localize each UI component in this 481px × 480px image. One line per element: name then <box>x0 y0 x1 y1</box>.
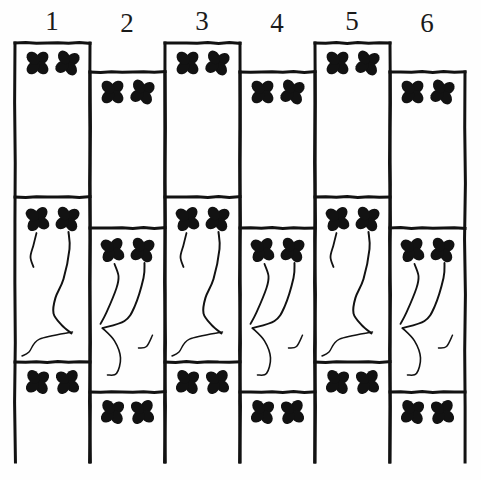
column-number-label: 5 <box>345 6 359 36</box>
middle-panel <box>172 203 233 356</box>
clover-motif <box>202 203 234 235</box>
clover-motif <box>172 203 203 234</box>
clover-motif <box>51 47 83 80</box>
clover-motif <box>322 203 353 234</box>
column-left-rule <box>390 72 391 462</box>
vine-stem-long <box>353 232 371 333</box>
clover-motif <box>398 397 428 427</box>
vine-stem-long <box>203 232 221 333</box>
column-4 <box>240 72 316 462</box>
clover-motif <box>323 367 353 397</box>
clover-motif <box>98 397 128 427</box>
panel-divider-upper <box>165 197 240 198</box>
column-number-5: 5 <box>332 8 372 35</box>
clover-motif <box>353 367 383 397</box>
column-left-rule <box>240 72 241 462</box>
middle-panel <box>97 234 158 375</box>
vine-stem-long <box>53 232 71 333</box>
bottom-panel <box>398 397 458 427</box>
vine-curl <box>253 328 271 375</box>
top-panel <box>324 47 384 80</box>
vine-stem-short <box>251 264 269 324</box>
bottom-panel <box>173 367 233 397</box>
panel-divider-upper <box>390 228 465 229</box>
clover-motif <box>53 367 83 397</box>
panel-divider-lower <box>240 392 315 393</box>
column-number-1: 1 <box>32 8 72 35</box>
top-panel <box>99 76 159 109</box>
clover-motif <box>247 234 278 265</box>
column-right-rule <box>465 72 466 462</box>
panel-divider-lower <box>390 392 465 393</box>
clover-motif <box>397 234 428 265</box>
clover-motif <box>23 367 53 397</box>
pattern-plate: 1 2 3 4 5 6 <box>0 0 481 480</box>
top-panel <box>249 76 309 109</box>
column-number-4: 4 <box>257 10 297 37</box>
vine-stem-long <box>403 263 445 328</box>
clover-motif <box>99 78 126 106</box>
clover-motif <box>174 49 201 77</box>
clover-motif <box>427 234 459 266</box>
vine-stem-short <box>331 233 337 267</box>
column-number-6: 6 <box>407 10 447 37</box>
clover-motif <box>277 234 309 266</box>
column-5 <box>315 43 391 462</box>
column-left-rule <box>90 72 91 462</box>
clover-motif <box>324 49 351 77</box>
panel-divider-upper <box>240 228 315 229</box>
column-number-3: 3 <box>182 8 222 35</box>
vine-stem-short <box>401 264 419 324</box>
column-top-rule <box>315 43 390 44</box>
column-left-rule <box>315 43 316 462</box>
panel-divider-upper <box>315 197 390 198</box>
middle-panel <box>397 234 458 375</box>
column-3 <box>165 43 241 462</box>
column-left-rule <box>165 43 166 462</box>
top-panel <box>399 76 459 109</box>
column-1 <box>15 43 91 462</box>
vine-stem-short <box>101 264 119 324</box>
clover-motif <box>248 397 278 427</box>
clover-motif <box>351 47 383 80</box>
middle-panel <box>322 203 383 356</box>
column-top-rule <box>240 72 315 73</box>
bottom-panel <box>248 397 308 427</box>
vine-sweep <box>322 332 373 356</box>
clover-motif <box>276 76 308 109</box>
clover-motif <box>24 49 51 77</box>
clover-motif <box>352 203 384 235</box>
clover-motif <box>97 234 128 265</box>
clover-motif <box>201 47 233 80</box>
clover-motif <box>249 78 276 106</box>
column-number-label: 3 <box>195 6 209 36</box>
column-top-rule <box>390 72 465 73</box>
column-number-label: 4 <box>270 8 284 38</box>
clover-motif <box>128 397 158 427</box>
panel-divider-lower <box>15 362 90 363</box>
column-number-label: 2 <box>120 8 134 38</box>
middle-panel <box>22 203 83 356</box>
top-panel <box>174 47 234 80</box>
column-top-rule <box>90 72 165 73</box>
vine-stem-short <box>181 233 187 267</box>
clover-motif <box>52 203 84 235</box>
bottom-panel <box>23 367 83 397</box>
clover-motif <box>126 76 158 109</box>
clover-motif <box>428 397 458 427</box>
clover-motif <box>22 203 53 234</box>
panel-divider-lower <box>165 362 240 363</box>
column-6 <box>390 72 466 462</box>
vine-stem-short <box>31 233 37 267</box>
vine-stem-long <box>103 263 145 328</box>
vine-flourish <box>439 335 453 348</box>
clover-motif <box>203 367 233 397</box>
panel-divider-upper <box>90 228 165 229</box>
vine-sweep <box>22 332 73 356</box>
clover-motif <box>127 234 159 266</box>
panel-divider-lower <box>315 362 390 363</box>
vine-flourish <box>139 335 153 348</box>
vine-curl <box>103 328 121 375</box>
column-top-rule <box>165 43 240 44</box>
middle-panel <box>247 234 308 375</box>
